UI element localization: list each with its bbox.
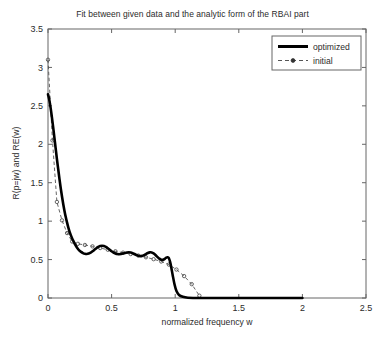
plot-area: 00.511.522.5 00.511.522.533.5 normalized…: [0, 0, 385, 343]
y-tick-label: 0: [38, 293, 43, 303]
y-tick-label: 3.5: [30, 24, 43, 34]
data-point-marker: [182, 274, 185, 277]
x-axis-tick-labels: 00.511.522.5: [45, 303, 372, 313]
y-axis-tick-labels: 00.511.522.533.5: [30, 24, 43, 303]
x-tick-label: 1: [173, 303, 178, 313]
chart-legend[interactable]: optimized initial: [272, 36, 361, 70]
series-line-initial: [48, 60, 199, 296]
y-tick-label: 1: [38, 216, 43, 226]
x-tick-label: 0: [45, 303, 50, 313]
y-tick-label: 3: [38, 63, 43, 73]
x-tick-label: 1.5: [233, 303, 246, 313]
legend-marker-initial: [291, 59, 295, 63]
x-tick-label: 2.5: [360, 303, 373, 313]
y-tick-label: 2.5: [30, 101, 43, 111]
legend-label-initial: initial: [313, 56, 333, 66]
legend-label-optimized: optimized: [313, 42, 350, 52]
x-tick-label: 0.5: [105, 303, 118, 313]
y-tick-label: 2: [38, 139, 43, 149]
y-tick-label: 1.5: [30, 178, 43, 188]
x-tick-label: 2: [300, 303, 305, 313]
series-line-optimized: [48, 94, 302, 298]
chart-figure: Fit between given data and the analytic …: [0, 0, 385, 343]
series-markers-initial: [46, 58, 201, 297]
x-axis-title: normalized frequency w: [162, 317, 254, 327]
y-tick-label: 0.5: [30, 255, 43, 265]
data-point-marker: [175, 268, 178, 271]
y-axis-title: R(p=jw) and RE(w): [11, 126, 21, 199]
